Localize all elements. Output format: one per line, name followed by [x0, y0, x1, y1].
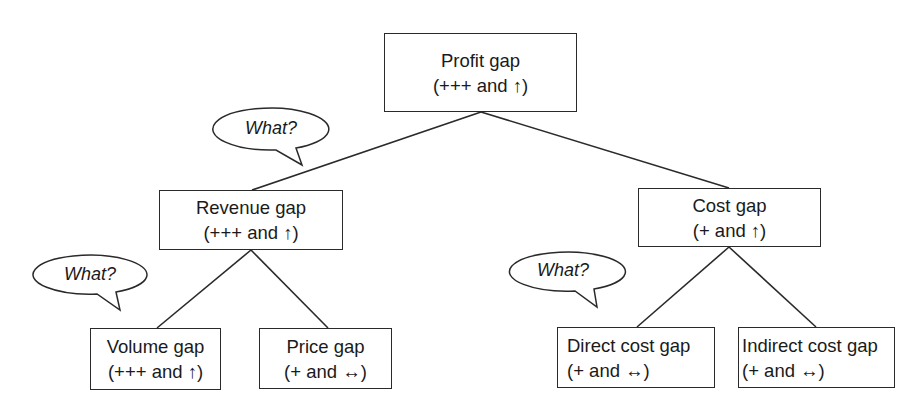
node-detail: (+++ and ↑) — [433, 73, 528, 98]
edge-profit-cost — [481, 112, 729, 188]
edge-cost-indirect — [729, 247, 816, 327]
node-profit-gap: Profit gap (+++ and ↑) — [384, 33, 577, 112]
node-volume-gap: Volume gap (+++ and ↑) — [90, 328, 221, 390]
node-title: Cost gap — [692, 193, 766, 218]
node-title: Direct cost gap — [558, 333, 690, 358]
edge-revenue-volume — [157, 250, 251, 328]
node-title: Price gap — [286, 334, 364, 359]
node-detail: (+ and ↔) — [739, 358, 825, 383]
node-revenue-gap: Revenue gap (+++ and ↑) — [159, 190, 343, 250]
node-detail: (+ and ↑) — [693, 218, 767, 243]
node-title: Revenue gap — [196, 195, 306, 220]
edge-revenue-price — [251, 250, 328, 328]
callout-text-1: What? — [213, 118, 329, 139]
node-cost-gap: Cost gap (+ and ↑) — [638, 188, 821, 247]
node-title: Indirect cost gap — [739, 333, 878, 358]
node-detail: (+++ and ↑) — [108, 359, 203, 384]
node-title: Profit gap — [441, 48, 520, 73]
callout-text-2: What? — [33, 264, 147, 285]
node-indirect-cost-gap: Indirect cost gap (+ and ↔) — [738, 327, 895, 388]
node-direct-cost-gap: Direct cost gap (+ and ↔) — [557, 327, 715, 388]
node-title: Volume gap — [107, 334, 205, 359]
node-detail: (+++ and ↑) — [203, 220, 298, 245]
node-detail: (+ and ↔) — [558, 358, 650, 383]
edge-cost-direct — [637, 247, 729, 327]
node-price-gap: Price gap (+ and ↔) — [259, 328, 392, 389]
node-detail: (+ and ↔) — [284, 359, 367, 384]
callout-text-3: What? — [505, 260, 621, 281]
